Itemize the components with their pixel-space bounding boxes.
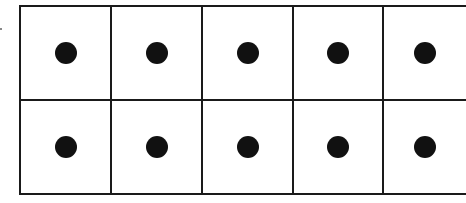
counter-dot-icon [414, 42, 436, 64]
counter-dot-icon [327, 42, 349, 64]
frame-cell [21, 101, 112, 193]
frame-cell [294, 7, 384, 101]
counter-dot-icon [55, 136, 77, 158]
frame-cell [112, 101, 203, 193]
frame-cell [294, 101, 384, 193]
counter-dot-icon [327, 136, 349, 158]
counter-dot-icon [146, 42, 168, 64]
counter-dot-icon [55, 42, 77, 64]
counter-dot-icon [146, 136, 168, 158]
ten-frame-grid [19, 5, 466, 195]
frame-cell [384, 101, 466, 193]
frame-cell [384, 7, 466, 101]
frame-cell [112, 7, 203, 101]
counter-dot-icon [414, 136, 436, 158]
frame-cell [203, 7, 294, 101]
counter-dot-icon [237, 136, 259, 158]
stray-mark [0, 28, 2, 30]
frame-cell [203, 101, 294, 193]
counter-dot-icon [237, 42, 259, 64]
frame-cell [21, 7, 112, 101]
